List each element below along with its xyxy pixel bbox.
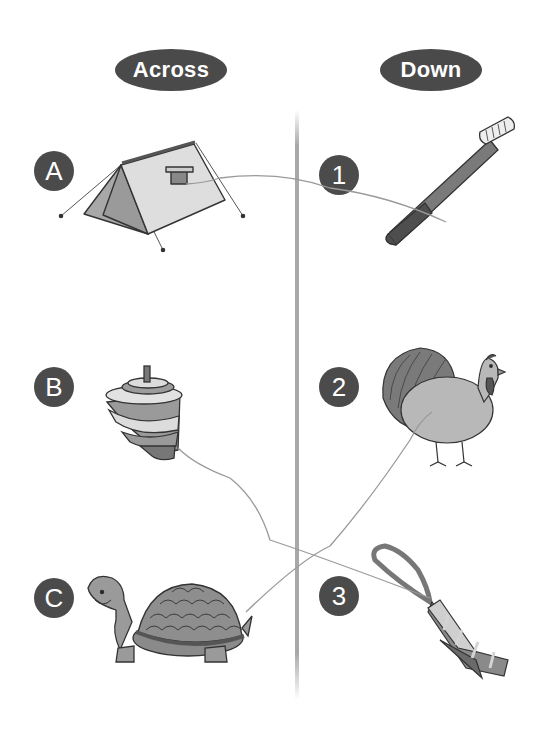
turtle-picture (88, 576, 252, 662)
turkey-picture (383, 348, 505, 466)
toothbrush-picture (386, 117, 514, 245)
tent-picture (59, 142, 244, 252)
necktie-picture (374, 546, 508, 678)
spinning-top-picture (106, 366, 182, 460)
illustration-layer (0, 0, 552, 749)
